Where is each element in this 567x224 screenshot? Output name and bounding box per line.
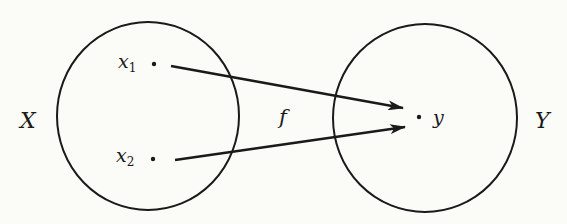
element-y-label: y [432, 106, 444, 128]
element-x2-dot [151, 157, 155, 161]
function-diagram: X x1 x2 Y y f [0, 0, 567, 224]
set-x-label: X [18, 108, 37, 133]
function-f-label: f [277, 105, 290, 129]
element-x1-dot [152, 62, 156, 66]
element-y-dot [417, 115, 421, 119]
element-x2-label: x2 [116, 144, 134, 169]
element-x1-label: x1 [118, 50, 136, 75]
set-y-label: Y [535, 108, 552, 133]
set-x-circle [57, 22, 239, 210]
set-y-circle [333, 24, 517, 212]
arrow-x1-to-y [171, 66, 403, 108]
arrow-x2-to-y [175, 127, 405, 160]
